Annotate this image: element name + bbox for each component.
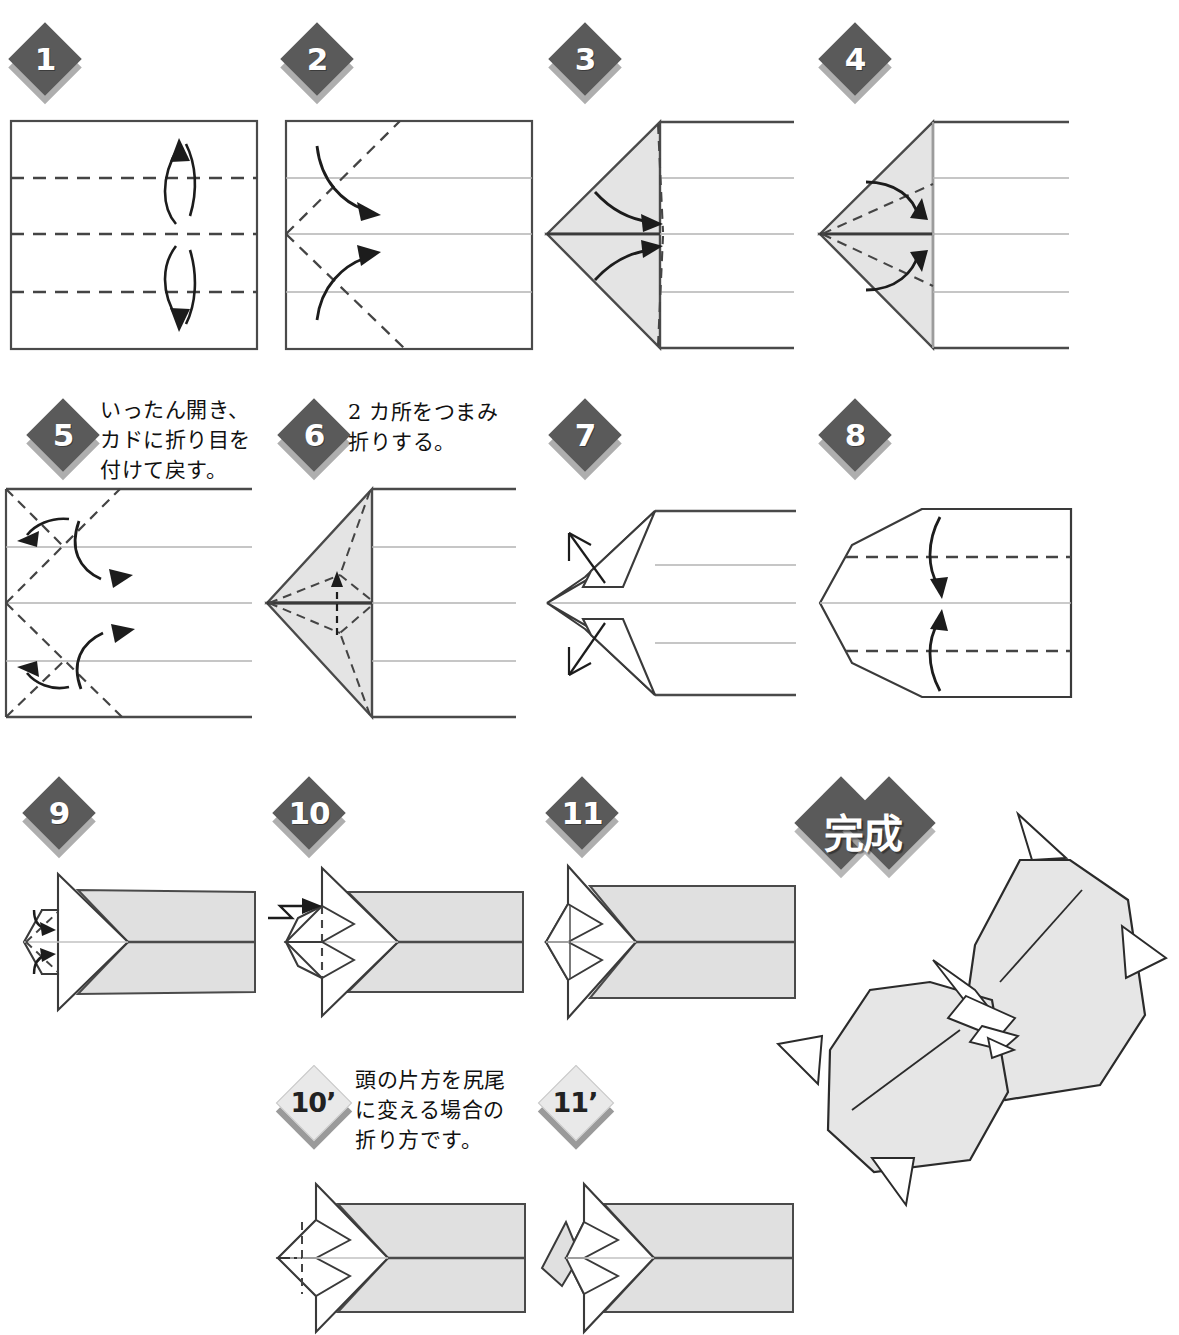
step-badge-label: 10: [272, 776, 346, 850]
step-badge-4: 4: [818, 22, 892, 96]
diagram-panel-10: [262, 862, 524, 1022]
step-badge-label: 3: [548, 22, 622, 96]
step-badge-label: 1: [8, 22, 82, 96]
diagram-panel-1: [10, 120, 258, 350]
step-caption-5: いったん開き、 カドに折り目を 付けて戻す。: [100, 396, 265, 485]
ear: [1018, 814, 1066, 860]
step-badge-9: 9: [22, 776, 96, 850]
ear: [872, 1158, 914, 1205]
step-badge-2: 2: [280, 22, 354, 96]
completion-badge-label: 完成: [806, 782, 966, 886]
pinched-flap: [583, 511, 655, 587]
diagram-panel-3: [545, 120, 795, 350]
step-caption-6: 2 カ所をつまみ 折りする。: [348, 398, 528, 458]
step-badge-8: 8: [818, 398, 892, 472]
diagram-panel-2: [285, 120, 533, 350]
step-badge-11: 11: [545, 776, 619, 850]
diagram-panel-4: [818, 120, 1070, 350]
step-badge-label: 2: [280, 22, 354, 96]
completion-badge: 完成: [806, 782, 966, 886]
diagram-panel-11-prime: [528, 1182, 794, 1334]
diagram-panel-7: [545, 487, 797, 719]
step-badge-label: 8: [818, 398, 892, 472]
step-badge-label: 7: [548, 398, 622, 472]
step-badge-label: 6: [277, 398, 351, 472]
ear: [778, 1036, 822, 1084]
step-badge-label: 5: [26, 398, 100, 472]
ear: [1122, 926, 1166, 978]
step-badge-10-prime: 10’: [276, 1065, 350, 1139]
step-badge-label: 9: [22, 776, 96, 850]
step-badge-6: 6: [277, 398, 351, 472]
step-badge-10: 10: [272, 776, 346, 850]
shaded-flap: [267, 489, 372, 603]
step-badge-11-prime: 11’: [538, 1065, 612, 1139]
step-badge-label: 11: [545, 776, 619, 850]
step-badge-label: 11’: [538, 1065, 612, 1139]
fold-arrow: [75, 521, 133, 588]
step-badge-label: 4: [818, 22, 892, 96]
fold-arrow: [77, 624, 135, 689]
pinched-flap: [583, 619, 655, 695]
diagram-panel-6: [265, 487, 517, 719]
origami-instruction-sheet: 1 2: [0, 0, 1179, 1335]
step-badge-3: 3: [548, 22, 622, 96]
step-badge-7: 7: [548, 398, 622, 472]
step-badge-5: 5: [26, 398, 100, 472]
shaded-flap: [820, 234, 933, 348]
diagram-panel-11: [530, 862, 796, 1022]
diagram-panel-10-prime: [262, 1182, 526, 1334]
diagram-panel-9: [0, 862, 256, 1022]
diagram-panel-5: [3, 487, 253, 719]
step-badge-label: 10’: [276, 1065, 350, 1139]
step-badge-1: 1: [8, 22, 82, 96]
diagram-panel-8: [818, 487, 1072, 719]
step-caption-10-prime: 頭の片方を尻尾 に変える場合の 折り方です。: [355, 1066, 545, 1155]
